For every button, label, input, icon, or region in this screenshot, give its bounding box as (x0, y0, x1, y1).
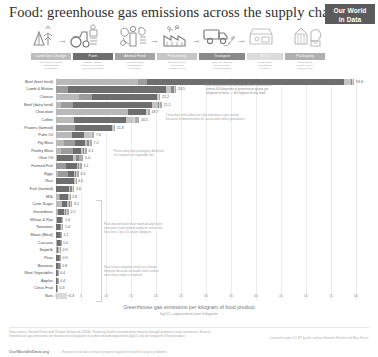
bar-segment (56, 132, 72, 138)
stage-desc-processing: Energy used to convert raw produce to fo… (157, 61, 197, 70)
bar-row-label: Chocolate (35, 109, 53, 115)
bar-segment (73, 186, 74, 192)
bar-segment (160, 102, 162, 108)
bar-segment (128, 109, 147, 115)
owid-logo[interactable]: Our World in Data (325, 4, 375, 24)
bar-row-label: Citrus Fruit (34, 285, 53, 291)
transport-truck-icon (202, 24, 236, 50)
bar-segment (67, 209, 69, 215)
bar-segment (56, 178, 74, 184)
bar-segment (75, 140, 86, 146)
bar-segment (56, 186, 69, 192)
bar-row-label: Bananas (38, 263, 53, 269)
bar-row-label: Palm Oil (38, 132, 53, 138)
bar-row[interactable] (56, 155, 356, 161)
stacked-bar (56, 155, 83, 161)
bar-row-label: Pig Meat (38, 140, 53, 146)
bar-segment (159, 94, 160, 100)
bar-row[interactable] (56, 140, 356, 146)
bar-row-label: Groundnuts (33, 209, 53, 215)
stacked-bar (56, 217, 63, 223)
page-title: Food: greenhouse gas emissions across th… (9, 4, 340, 21)
bar-segment (56, 140, 64, 146)
farm-tractor-icon (68, 24, 100, 50)
processing-factory-icon (160, 24, 190, 50)
bar-row-label: Farmed Fish (31, 163, 53, 169)
stage-desc-farm: Methane, manure, fertilizers, machinery,… (73, 61, 113, 70)
bar-row-label: Coffee (42, 117, 53, 123)
bar-row-label: Cane Sugar (32, 201, 53, 207)
animal-feed-icon (118, 24, 148, 50)
x-tick-label: 55 (329, 294, 333, 298)
bar-segment (58, 171, 68, 177)
x-tick-label: 5 (80, 294, 82, 298)
bar-row-label: Tomatoes (36, 224, 53, 230)
stacked-bar (56, 125, 115, 131)
bar-row[interactable] (56, 171, 356, 177)
bar-row[interactable] (56, 132, 356, 138)
bar-segment (66, 163, 77, 169)
supply-chain-icons: → → (30, 24, 326, 52)
stage-chip-retail[interactable]: Retail (247, 53, 283, 60)
bar-segment (74, 117, 126, 123)
retail-store-icon (246, 24, 276, 50)
owid-logo-line1: Our World (325, 6, 375, 15)
bar-segment (56, 125, 75, 131)
bar-row-label: Cheese (40, 94, 53, 100)
bar-row[interactable] (56, 163, 356, 169)
bar-row-label: Beef (beef herd) (25, 79, 53, 85)
x-axis-caption: Greenhouse gas emissions per kilogram of… (0, 304, 378, 317)
stacked-bar (56, 171, 79, 177)
bar-row-label: Apples (41, 278, 53, 284)
bar-row-label: Fish (farmed) (30, 186, 53, 192)
stage-desc-land-use-change: Conversion of forest and grassland to cr… (31, 61, 71, 70)
stacked-bar (56, 186, 74, 192)
bar-row[interactable] (56, 125, 356, 131)
bar-segment (80, 163, 82, 169)
bar-row[interactable] (56, 148, 356, 154)
bar-row-label: Poultry Meat (31, 148, 53, 154)
owid-logo-line2: in Data (325, 15, 375, 24)
stage-chip-farm[interactable]: Farm (73, 53, 113, 60)
stage-chip-packaging[interactable]: Packaging (285, 53, 325, 60)
bar-segment (56, 109, 128, 115)
bar-segment (61, 240, 62, 246)
x-tick-label: 25 (179, 294, 183, 298)
chain-arrow-2: → (150, 36, 159, 45)
stacked-bar (56, 109, 150, 115)
stage-desc-animal-feed: Production and processing of feed crops (115, 61, 155, 70)
stacked-bar (56, 209, 69, 215)
stacked-bar (56, 232, 62, 238)
owid-site-link[interactable]: OurWorldInData.org (9, 349, 49, 354)
chart-annotation: Chocolate and coffee are high-emission c… (166, 113, 245, 121)
bar-row-label: Milk (46, 194, 53, 200)
stacked-bar (56, 278, 58, 284)
bar-value-label: 59.6 (356, 79, 363, 85)
bar-row[interactable] (56, 186, 356, 192)
x-tick-label: 30 (204, 294, 208, 298)
bar-segment (138, 79, 148, 85)
stacked-bar (56, 224, 63, 230)
chart-area: Beef (beef herd)59.6Lamb & Mutton24.5Che… (0, 78, 378, 306)
stage-chip-land-use-change[interactable]: Land Use Change (31, 53, 71, 60)
stacked-bar (56, 132, 94, 138)
bar-row[interactable] (56, 178, 356, 184)
stacked-bar (56, 201, 72, 207)
bar-segment (57, 155, 73, 161)
stage-chip-transport[interactable]: Transport (199, 53, 245, 60)
bar-segment (61, 148, 73, 154)
stage-chip-processing[interactable]: Processing (157, 53, 197, 60)
stacked-bar (56, 240, 61, 246)
x-tick-label: 40 (254, 294, 258, 298)
chart-annotation: Nuts have a negative land use change foo… (104, 265, 159, 277)
stacked-bar (56, 148, 87, 154)
x-tick-label: 0 (55, 294, 57, 298)
bar-row-label: Peas (44, 255, 53, 261)
plot-region: Beef (beef herd)59.6Lamb & Mutton24.5Che… (56, 78, 356, 300)
stage-chip-animal-feed[interactable]: Animal Feed (115, 53, 155, 60)
stacked-bar (56, 194, 70, 200)
bar-row[interactable] (56, 194, 356, 200)
stacked-bar (56, 263, 60, 269)
bar-row[interactable] (56, 102, 356, 108)
bar-segment (85, 148, 87, 154)
